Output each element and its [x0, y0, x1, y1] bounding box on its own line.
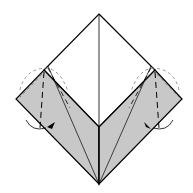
origami-diagram — [0, 0, 193, 193]
